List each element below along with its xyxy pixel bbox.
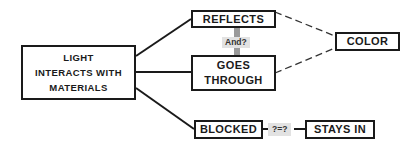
node-goes-through-line-2: THROUGH [204, 73, 262, 88]
edge-reflects-color [275, 12, 335, 36]
node-stays-in-label: STAYS IN [314, 123, 366, 136]
edge-main-blocked [136, 88, 194, 129]
edge-goes-through-color [275, 48, 335, 73]
node-stays-in: STAYS IN [305, 120, 375, 139]
node-main-line-1: LIGHT [63, 50, 94, 65]
node-main-line-2: INTERACTS WITH [35, 65, 122, 80]
node-color: COLOR [335, 32, 400, 51]
node-goes-through: GOES THROUGH [191, 55, 276, 91]
node-main-line-3: MATERIALS [49, 80, 107, 95]
node-color-label: COLOR [347, 35, 389, 48]
node-blocked: BLOCKED [194, 120, 263, 139]
connector-label-and: And? [222, 37, 250, 48]
node-reflects: REFLECTS [191, 10, 276, 28]
node-blocked-label: BLOCKED [200, 123, 257, 136]
node-reflects-label: REFLECTS [203, 13, 264, 26]
node-goes-through-line-1: GOES [217, 58, 250, 73]
connector-label-equals: ?=? [268, 123, 291, 136]
edge-main-reflects [136, 19, 191, 56]
node-light-interacts-with-materials: LIGHT INTERACTS WITH MATERIALS [21, 45, 136, 100]
